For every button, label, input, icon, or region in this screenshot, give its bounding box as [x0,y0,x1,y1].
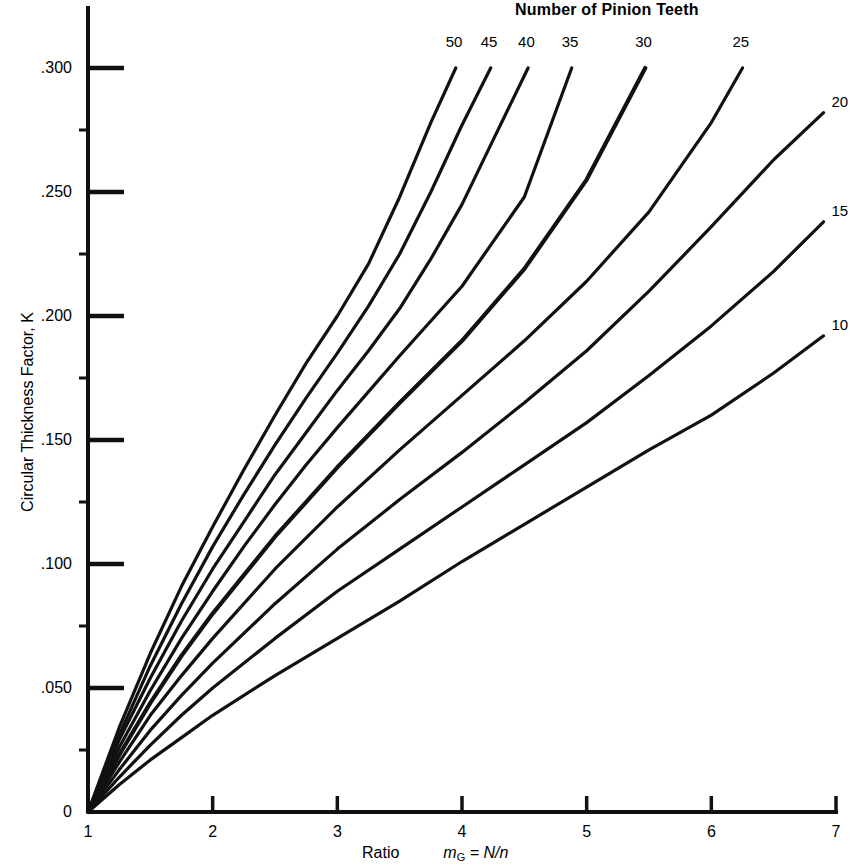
series-label-20: 20 [832,94,849,109]
series-label-35: 35 [562,34,579,49]
x-tick-label-4: 4 [447,824,477,840]
chart-figure: Number of Pinion Teeth Circular Thicknes… [0,0,850,868]
x-axis-label-symbol: m [443,844,456,861]
y-tick-label-.200: .200 [12,308,72,324]
x-tick-label-3: 3 [322,824,352,840]
y-tick-label-.100: .100 [12,556,72,572]
series-label-25: 25 [733,34,750,49]
chart-title: Number of Pinion Teeth [515,2,699,18]
y-tick-label-0: 0 [12,804,72,820]
series-line-25 [88,68,743,812]
series-line-15 [88,222,824,812]
series-lines [88,68,824,812]
series-label-30: 30 [635,34,652,49]
x-tick-label-6: 6 [696,824,726,840]
y-tick-label-.250: .250 [12,184,72,200]
x-tick-label-7: 7 [821,824,850,840]
x-axis-label: RatiomG = N/n [362,845,508,863]
x-tick-label-2: 2 [198,824,228,840]
series-label-40: 40 [518,34,535,49]
y-tick-label-.050: .050 [12,680,72,696]
series-line-45 [88,68,491,812]
x-tick-label-1: 1 [73,824,103,840]
series-label-15: 15 [832,203,849,218]
x-axis-label-subscript: G [457,851,466,863]
series-label-45: 45 [481,34,498,49]
chart-plot-area [0,0,850,868]
y-tick-label-.150: .150 [12,432,72,448]
x-tick-label-5: 5 [572,824,602,840]
series-label-50: 50 [446,34,463,49]
y-axis-label: Circular Thickness Factor, K [20,292,36,532]
y-tick-label-.300: .300 [12,60,72,76]
x-axis-label-rest: = N/n [465,844,508,861]
axes [79,6,838,812]
series-label-10: 10 [832,317,849,332]
x-axis-label-prefix: Ratio [362,844,399,861]
